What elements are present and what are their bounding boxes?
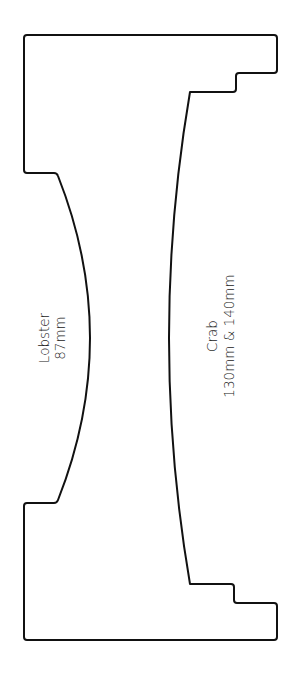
lobster-label-name: Lobster <box>36 312 52 363</box>
lobster-label-size: 87mm <box>52 316 68 359</box>
template-diagram: Lobster 87mm Crab 130mm & 140mm <box>0 0 299 685</box>
crab-label-size: 130mm & 140mm <box>221 274 237 397</box>
crab-label-name: Crab <box>204 320 220 352</box>
lobster-label: Lobster 87mm <box>36 312 68 363</box>
crab-label: Crab 130mm & 140mm <box>204 274 237 397</box>
